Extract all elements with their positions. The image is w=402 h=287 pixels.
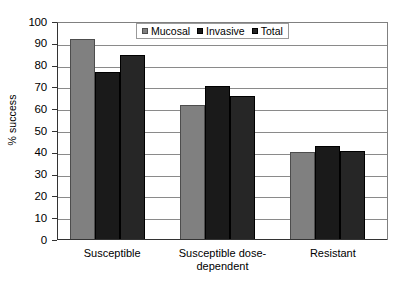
bar-mucosal-2 (180, 105, 205, 240)
legend-item-mucosal[interactable]: Mucosal (142, 26, 190, 37)
y-tick-label: 100 (17, 16, 47, 28)
y-tick-mark (52, 240, 57, 241)
legend-swatch-icon (197, 28, 203, 34)
bar-chart: % success 0102030405060708090100 Mucosal… (0, 0, 402, 287)
gridline (58, 67, 387, 68)
y-tick-label: 40 (17, 146, 47, 158)
bar-total-3 (340, 151, 365, 240)
x-axis-label-1: Susceptible (57, 247, 167, 260)
y-tick-label: 10 (17, 212, 47, 224)
y-tick-label: 90 (17, 37, 47, 49)
x-axis-label-line: Susceptible (57, 247, 167, 260)
x-axis-label-2: Susceptible dose-dependent (167, 247, 277, 272)
legend-label: Invasive (206, 26, 245, 37)
y-tick-label: 50 (17, 125, 47, 137)
bar-invasive-3 (315, 146, 340, 240)
bar-invasive-1 (95, 72, 120, 240)
y-tick-label: 30 (17, 168, 47, 180)
bar-total-2 (230, 96, 255, 240)
legend-item-total[interactable]: Total (252, 26, 283, 37)
x-axis-label-line: dependent (167, 260, 277, 273)
legend-swatch-icon (252, 28, 258, 34)
plot-area (57, 22, 388, 240)
bar-mucosal-3 (290, 152, 315, 240)
y-axis-title: % success (2, 0, 22, 240)
x-axis-label-line: Susceptible dose- (167, 247, 277, 260)
bar-invasive-2 (205, 86, 230, 240)
legend-swatch-icon (142, 28, 148, 34)
y-tick-label: 20 (17, 190, 47, 202)
legend-item-invasive[interactable]: Invasive (197, 26, 245, 37)
x-axis-label-3: Resistant (278, 247, 388, 260)
y-tick-label: 70 (17, 81, 47, 93)
bar-total-1 (120, 55, 145, 240)
bar-mucosal-1 (70, 39, 95, 240)
chart-legend: MucosalInvasiveTotal (136, 23, 289, 39)
legend-label: Total (261, 26, 283, 37)
y-tick-label: 80 (17, 59, 47, 71)
x-axis-label-line: Resistant (278, 247, 388, 260)
legend-label: Mucosal (151, 26, 190, 37)
x-axis-line (58, 239, 387, 240)
gridline (58, 45, 387, 46)
y-tick-label: 0 (17, 234, 47, 246)
y-tick-label: 60 (17, 103, 47, 115)
